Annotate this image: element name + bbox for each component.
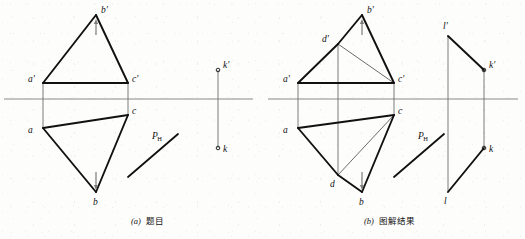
edge-a-prime-d-prime <box>298 44 338 83</box>
label-k-prime: k' <box>489 60 496 70</box>
edge-a-c <box>298 115 394 128</box>
panel-a-caption: (a) 题目 <box>131 216 164 226</box>
projection-figure-svg: P H a' b' c' a b c k' k (a) 题目 <box>0 0 525 239</box>
edge-a-prime-b-prime <box>43 15 96 83</box>
edge-a-d <box>298 128 338 175</box>
label-l: l <box>444 196 447 206</box>
thick-edges <box>43 15 128 192</box>
projection-lines <box>43 70 218 148</box>
edge-d-b <box>338 175 362 192</box>
edge-b-c <box>96 115 128 192</box>
label-b: b <box>359 197 364 207</box>
label-k-prime: k' <box>223 60 230 70</box>
caption-text-a: 题目 <box>146 216 164 226</box>
label-l-prime: l' <box>443 21 449 31</box>
edge-a-b <box>43 128 96 192</box>
label-a: a <box>28 125 33 135</box>
label-c: c <box>398 106 403 116</box>
edge-b-c <box>362 115 394 192</box>
trace-line-ph: P H <box>394 131 444 177</box>
edge-a-c <box>43 115 128 128</box>
caption-text-b: 图解结果 <box>379 216 415 226</box>
label-k: k <box>489 144 494 154</box>
label-c-prime: c' <box>398 74 405 84</box>
arrow-b-prime <box>94 19 98 35</box>
label-a-prime: a' <box>283 74 291 84</box>
trace-ph-label-subscript: H <box>157 135 162 142</box>
trace-ph-label-subscript: H <box>423 135 428 142</box>
edge-d-prime-b-prime <box>338 15 362 44</box>
label-b: b <box>93 197 98 207</box>
point-labels: a' b' c' d' a b c d l' k' k l <box>283 5 496 207</box>
edge-l-k <box>448 148 484 192</box>
label-c-prime: c' <box>132 74 139 84</box>
panel-b: P H a' b' c' d' a b c d l' k' k l <box>268 5 518 226</box>
construction-d-c <box>338 115 394 175</box>
label-c: c <box>132 106 137 116</box>
panel-b-caption: (b) 图解结果 <box>364 216 415 226</box>
label-d-prime: d' <box>322 34 330 44</box>
figure-root: P H a' b' c' a b c k' k (a) 题目 <box>0 0 525 239</box>
edge-l-prime-k-prime <box>448 36 484 70</box>
label-k: k <box>223 144 228 154</box>
label-b-prime: b' <box>367 5 375 15</box>
panel-a: P H a' b' c' a b c k' k (a) 题目 <box>4 5 253 226</box>
edge-b-prime-c-prime <box>362 15 394 83</box>
label-a-prime: a' <box>28 74 36 84</box>
caption-index-a: (a) <box>131 216 141 226</box>
direction-arrows <box>94 19 98 190</box>
caption-index-b: (b) <box>364 216 374 226</box>
label-a: a <box>283 125 288 135</box>
direction-arrows <box>360 19 364 190</box>
arrow-b-prime <box>360 19 364 35</box>
projection-lines <box>298 36 484 192</box>
trace-line-ph: P H <box>128 131 178 177</box>
edge-b-prime-c-prime <box>96 15 128 83</box>
label-d: d <box>330 179 335 189</box>
label-b-prime: b' <box>101 5 109 15</box>
